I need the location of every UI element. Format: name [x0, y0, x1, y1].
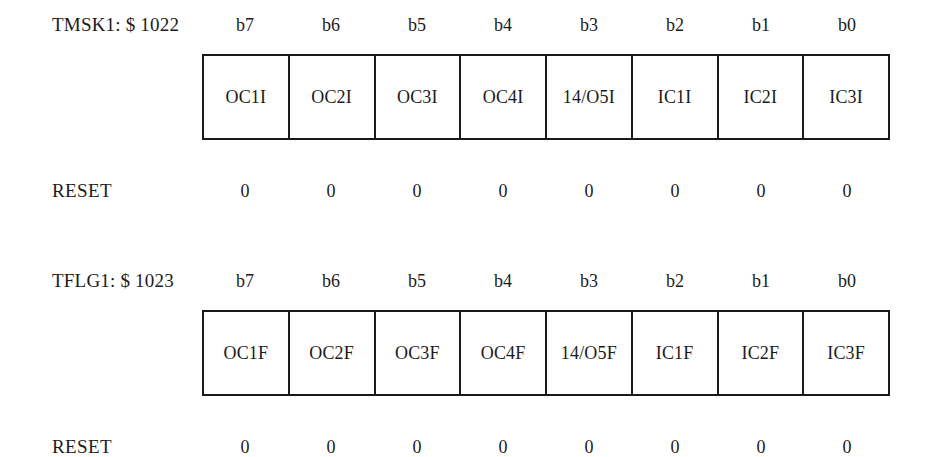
reset-row: RESET 0 0 0 0 0 0 0 0 — [0, 434, 936, 457]
reset-value: 0 — [718, 434, 804, 457]
reset-value-row: 0 0 0 0 0 0 0 0 — [202, 434, 890, 457]
register-cell: OC4F — [461, 312, 547, 394]
register-cell: IC1F — [633, 312, 719, 394]
reset-value: 0 — [374, 178, 460, 204]
reset-value: 0 — [460, 434, 546, 457]
bit-label-b7: b7 — [202, 268, 288, 294]
bit-label-b2: b2 — [632, 12, 718, 38]
reset-value: 0 — [632, 178, 718, 204]
reset-label: RESET — [52, 178, 112, 204]
register-cell: OC4I — [461, 56, 547, 138]
reset-value: 0 — [202, 434, 288, 457]
bit-label-b0: b0 — [804, 268, 890, 294]
reset-value: 0 — [546, 178, 632, 204]
register-bit-box: OC1F OC2F OC3F OC4F 14/O5F IC1F IC2F IC3… — [202, 310, 890, 396]
bit-label-b5: b5 — [374, 268, 460, 294]
register-cell: 14/O5F — [547, 312, 633, 394]
register-cell: OC3I — [376, 56, 462, 138]
register-cell: OC2F — [290, 312, 376, 394]
register-header-row: TFLG1: $ 1023 b7 b6 b5 b4 b3 b2 b1 b0 — [0, 268, 936, 298]
register-cell: OC1I — [204, 56, 290, 138]
register-header-row: TMSK1: $ 1022 b7 b6 b5 b4 b3 b2 b1 b0 — [0, 12, 936, 42]
reset-value: 0 — [804, 434, 890, 457]
bit-label-b4: b4 — [460, 12, 546, 38]
bit-label-b3: b3 — [546, 12, 632, 38]
register-cell: OC1F — [204, 312, 290, 394]
bit-label-b3: b3 — [546, 268, 632, 294]
register-diagram-tmsk1: TMSK1: $ 1022 b7 b6 b5 b4 b3 b2 b1 b0 OC… — [0, 12, 936, 206]
reset-value: 0 — [374, 434, 460, 457]
reset-value: 0 — [288, 178, 374, 204]
register-cell: IC3F — [804, 312, 888, 394]
register-name-label: TFLG1: $ 1023 — [52, 268, 174, 294]
register-cell: OC2I — [290, 56, 376, 138]
bit-label-b6: b6 — [288, 268, 374, 294]
bit-label-row: b7 b6 b5 b4 b3 b2 b1 b0 — [202, 268, 890, 294]
bit-label-b7: b7 — [202, 12, 288, 38]
reset-label: RESET — [52, 434, 112, 457]
reset-value-row: 0 0 0 0 0 0 0 0 — [202, 178, 890, 204]
register-cell: IC2F — [719, 312, 805, 394]
reset-value: 0 — [288, 434, 374, 457]
register-cell: IC2I — [719, 56, 805, 138]
register-diagram-tflg1: TFLG1: $ 1023 b7 b6 b5 b4 b3 b2 b1 b0 OC… — [0, 268, 936, 457]
reset-value: 0 — [546, 434, 632, 457]
reset-value: 0 — [632, 434, 718, 457]
bit-label-b4: b4 — [460, 268, 546, 294]
register-cell: IC3I — [804, 56, 888, 138]
register-cell: OC3F — [376, 312, 462, 394]
register-name-label: TMSK1: $ 1022 — [52, 12, 179, 38]
register-cell: 14/O5I — [547, 56, 633, 138]
bit-label-b5: b5 — [374, 12, 460, 38]
register-bit-box: OC1I OC2I OC3I OC4I 14/O5I IC1I IC2I IC3… — [202, 54, 890, 140]
bit-label-b1: b1 — [718, 12, 804, 38]
reset-value: 0 — [804, 178, 890, 204]
reset-row: RESET 0 0 0 0 0 0 0 0 — [0, 178, 936, 206]
bit-label-b2: b2 — [632, 268, 718, 294]
reset-value: 0 — [202, 178, 288, 204]
bit-label-b0: b0 — [804, 12, 890, 38]
bit-label-b1: b1 — [718, 268, 804, 294]
reset-value: 0 — [460, 178, 546, 204]
bit-label-row: b7 b6 b5 b4 b3 b2 b1 b0 — [202, 12, 890, 38]
bit-label-b6: b6 — [288, 12, 374, 38]
reset-value: 0 — [718, 178, 804, 204]
register-cell: IC1I — [633, 56, 719, 138]
